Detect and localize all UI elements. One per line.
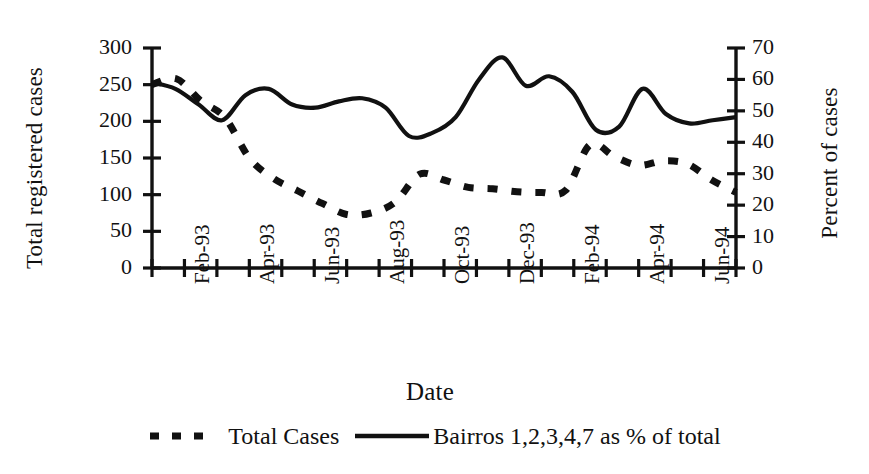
solid-line-icon	[353, 431, 431, 441]
data-series	[152, 57, 736, 215]
series-line-bairros-percent	[152, 57, 736, 137]
legend-item-total-cases: Total Cases Bairros 1,2,3,4,7 as % of to…	[148, 424, 720, 448]
chart-legend: Total Cases Bairros 1,2,3,4,7 as % of to…	[0, 424, 869, 448]
chart-figure: Total registered cases Percent of cases …	[0, 0, 869, 474]
dashed-line-icon	[148, 431, 218, 441]
legend-label-bairros: Bairros 1,2,3,4,7 as % of total	[433, 424, 720, 448]
plot-area	[0, 0, 869, 474]
legend-label-total-cases: Total Cases	[228, 424, 339, 448]
axes-lines	[143, 47, 745, 277]
